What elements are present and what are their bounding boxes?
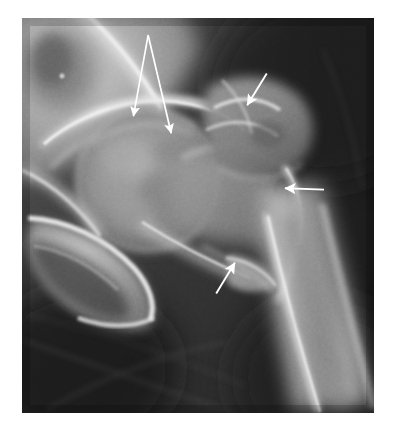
film-grain-coarse [22,18,374,413]
page-root: X-ray hip anteroposterior left 5 Ilium A… [0,0,396,431]
hip-radiograph [22,18,374,413]
radiograph-canvas [22,18,374,413]
